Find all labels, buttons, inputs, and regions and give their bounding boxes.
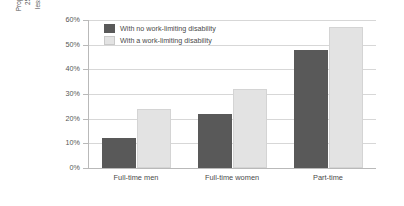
x-axis-label-full-time-women: Full-time women [184,173,280,183]
legend-item-with-disability: With a work-limiting disability [104,36,216,45]
y-tick-label-10: 10% [6,139,80,147]
y-tick-mark-20 [83,119,88,120]
x-axis-label-full-time-men: Full-time men [88,173,184,183]
y-axis-tick-labels: 0%10%20%30%40%50%60% [0,0,80,206]
legend-item-no-disability: With no work-limiting disability [104,24,216,33]
y-tick-label-40: 40% [6,65,80,73]
y-tick-mark-0 [83,168,88,169]
y-tick-mark-50 [83,45,88,46]
bar-part-time-series-2 [329,27,363,168]
bar-full-time-women-series-1 [198,114,232,168]
y-tick-label-30: 30% [6,90,80,98]
legend-swatch-icon-with-disability [104,36,115,45]
bar-chart: Proportion of employees aged 25 to retir… [0,0,404,206]
legend-label-no-disability: With no work-limiting disability [120,24,216,33]
bar-full-time-men-series-1 [102,138,136,168]
bar-full-time-men-series-2 [137,109,171,168]
y-tick-mark-40 [83,69,88,70]
bar-part-time-series-1 [294,50,328,168]
bar-full-time-women-series-2 [233,89,267,168]
y-tick-mark-60 [83,20,88,21]
y-tick-mark-10 [83,143,88,144]
y-tick-label-50: 50% [6,41,80,49]
y-tick-label-0: 0% [6,164,80,172]
legend-swatch-icon-no-disability [104,24,115,33]
y-tick-label-60: 60% [6,16,80,24]
chart-legend: With no work-limiting disability With a … [104,24,216,45]
legend-label-with-disability: With a work-limiting disability [120,36,212,45]
x-axis-label-part-time: Part-time [280,173,376,183]
gridline-0 [88,168,376,169]
y-tick-label-20: 20% [6,115,80,123]
x-axis-category-labels: Full-time menFull-time womenPart-time [88,173,376,187]
y-tick-mark-30 [83,94,88,95]
